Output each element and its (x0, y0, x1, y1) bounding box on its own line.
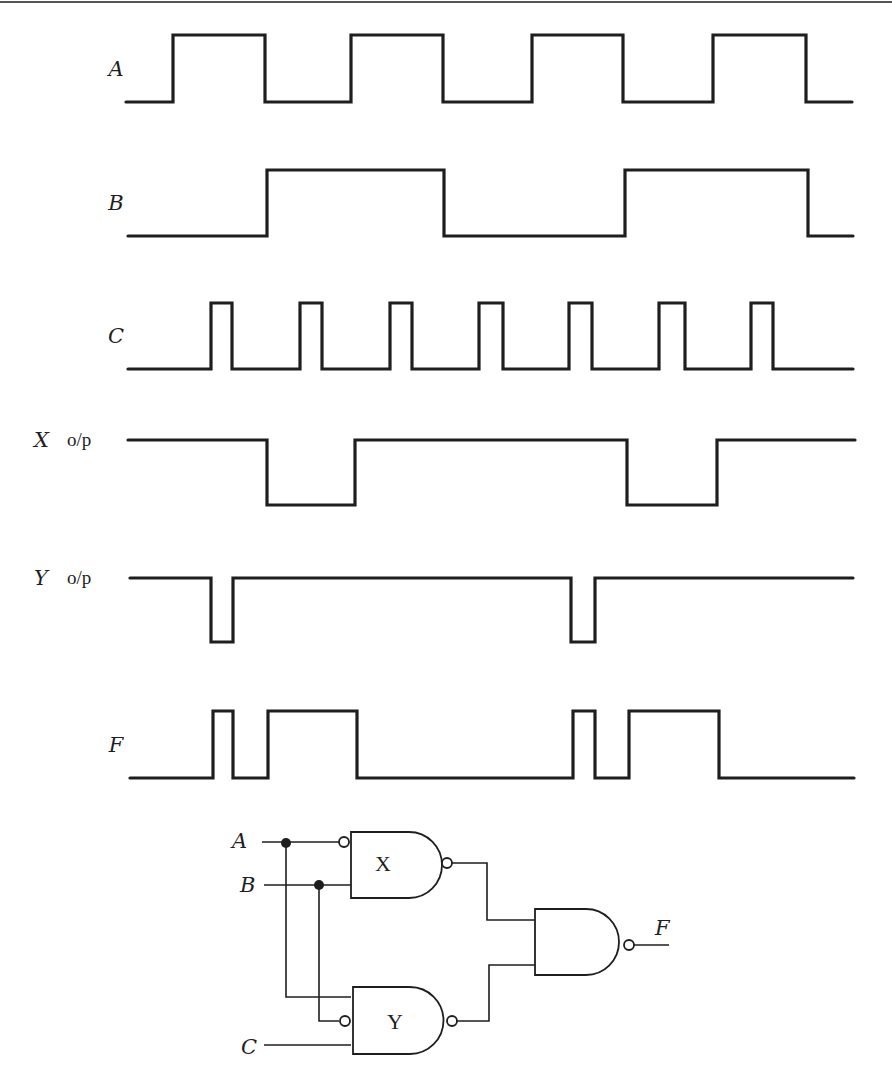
circuit-output-label-f: F (654, 916, 671, 940)
junction-dot-a (281, 838, 291, 848)
timing-diagram-figure: ABCXo/pYo/pF A B C F X Y (0, 0, 892, 1092)
waveform-a (126, 35, 852, 102)
circuit-input-label-a: A (230, 829, 247, 853)
signal-suffix-y: o/p (67, 567, 91, 588)
waveforms (126, 35, 855, 778)
circuit-input-label-c: C (241, 1035, 257, 1059)
nand-bubble-y (447, 1016, 457, 1026)
wire-b-to-y (319, 885, 339, 1021)
signal-labels: ABCXo/pYo/pF (32, 57, 125, 757)
circuit-input-label-b: B (239, 873, 255, 897)
inverter-bubble-b-input (340, 1016, 350, 1026)
signal-label-c: C (108, 324, 124, 348)
signal-label-f: F (108, 733, 125, 757)
waveform-x (128, 440, 855, 505)
waveform-c (128, 303, 853, 369)
inverter-bubble-a-input (339, 837, 349, 847)
nand-gate-f (535, 909, 619, 975)
gate-label-x: X (375, 851, 391, 876)
waveform-f (130, 711, 854, 778)
signal-label-a: A (106, 57, 123, 81)
wire-y-to-f (457, 965, 535, 1021)
nand-bubble-x (442, 858, 452, 868)
logic-circuit: A B C F X Y (230, 829, 671, 1059)
nand-bubble-f (624, 940, 634, 950)
signal-label-y: Y (34, 566, 50, 590)
junction-dot-b (314, 880, 324, 890)
waveform-b (128, 170, 853, 236)
wire-x-to-f (452, 863, 535, 920)
waveform-y (130, 578, 853, 642)
gate-label-y: Y (387, 1009, 403, 1034)
signal-label-x: X (32, 428, 50, 452)
signal-label-b: B (107, 191, 123, 215)
nand-gate-x (351, 832, 442, 898)
signal-suffix-x: o/p (67, 429, 91, 450)
